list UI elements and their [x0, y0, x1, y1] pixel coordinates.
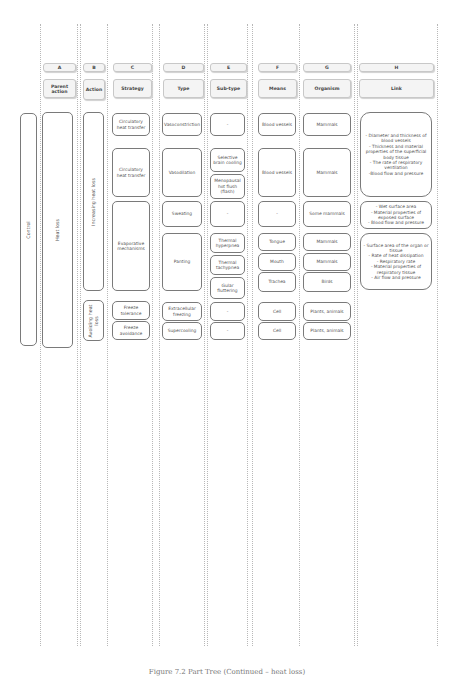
strategy-node: Freeze avoidance — [112, 321, 150, 340]
column-guide — [357, 24, 358, 646]
column-letter-c: C — [113, 63, 152, 72]
subtype-node: - — [210, 113, 245, 136]
subtype-node: Selective brain cooling — [210, 148, 245, 172]
column-guide — [437, 24, 438, 646]
organism-node: Mammals — [303, 148, 351, 197]
means-node: Cell — [258, 322, 296, 340]
link-node: - Diameter and thickness of blood vessel… — [360, 112, 432, 197]
strategy-node: Evaporative mechanisms — [112, 201, 150, 291]
type-node: Extracellular freezing — [162, 302, 202, 321]
means-node: Blood vessels — [258, 113, 296, 136]
column-title-link: Link — [359, 79, 434, 98]
parent-action-node-heat-loss: Heat loss — [42, 112, 73, 348]
organism-node: Mammals — [303, 113, 351, 136]
type-node: Vasodilation — [162, 148, 202, 197]
column-title-action: Action — [83, 79, 105, 100]
means-node: Blood vessels — [258, 148, 296, 197]
action-node-avoiding-heat-loss: Avoiding heat loss — [83, 300, 104, 341]
column-letter-g: G — [303, 63, 351, 72]
organism-node: Plants, animals — [303, 302, 351, 321]
action-label: Avoiding heat loss — [88, 302, 99, 340]
link-node: - Wet surface area - Material properties… — [360, 201, 432, 229]
column-guide — [152, 24, 153, 646]
means-node: Tongue — [258, 233, 296, 251]
column-guide — [80, 24, 81, 646]
subtype-node: Gular fluttering — [210, 277, 245, 299]
column-guide — [299, 24, 300, 646]
column-letter-d: D — [163, 63, 204, 72]
means-node: Mouth — [258, 253, 296, 271]
means-node: Trachea — [258, 272, 296, 292]
column-title-parent-action: Parent action — [43, 79, 76, 98]
link-node: - Surface area of the organ or tissue - … — [360, 233, 432, 290]
column-guide — [77, 24, 78, 646]
column-title-type: Type — [163, 79, 204, 98]
organism-node: Birds — [303, 272, 351, 292]
type-node: Sweating — [162, 201, 202, 227]
parent-action-label: Heat loss — [55, 219, 61, 241]
type-node: Panting — [162, 233, 202, 291]
organism-node: Some mammals — [303, 201, 351, 227]
strategy-node: Freeze tolerance — [112, 301, 150, 320]
action-node-increasing-heat-loss: Increasing heat loss — [83, 112, 104, 291]
type-node: Vasoconstriction — [162, 113, 202, 136]
column-letter-b: B — [83, 63, 105, 72]
column-letter-e: E — [210, 63, 247, 72]
strategy-node: Circulatory heat transfer — [112, 113, 150, 136]
column-letter-a: A — [43, 63, 76, 72]
column-guide — [107, 24, 108, 646]
column-letter-f: F — [258, 63, 297, 72]
organism-node: Mammals — [303, 253, 351, 271]
column-guide — [207, 24, 208, 646]
subtype-node: Thermal tachypnea — [210, 255, 245, 275]
type-node: Supercooling — [162, 322, 202, 340]
column-letter-h: H — [359, 63, 434, 72]
subtype-node: - — [210, 302, 245, 321]
column-guide — [252, 24, 253, 646]
organism-node: Mammals — [303, 233, 351, 251]
strategy-node: Circulatory heat transfer — [112, 148, 150, 197]
means-node: - — [258, 201, 296, 227]
organism-node: Plants, animals — [303, 322, 351, 340]
column-guide — [204, 24, 205, 646]
column-guide — [159, 24, 160, 646]
column-guide — [247, 24, 248, 646]
column-title-subtype: Sub-type — [210, 79, 247, 98]
subtype-node: - — [210, 322, 245, 340]
root-node-label: Control — [26, 221, 32, 238]
root-node-control: Control — [20, 113, 37, 346]
column-guide — [354, 24, 355, 646]
column-title-organism: Organism — [303, 79, 351, 98]
action-label: Increasing heat loss — [91, 178, 97, 226]
subtype-node: Menopausal hot flush (flash) — [210, 174, 245, 199]
subtype-node: - — [210, 201, 245, 227]
subtype-node: Thermal hyperpnea — [210, 233, 245, 253]
column-title-means: Means — [258, 79, 297, 98]
figure-caption: Figure 7.2 Part Tree (Continued – heat l… — [0, 668, 454, 676]
column-guide — [40, 24, 41, 646]
column-title-strategy: Strategy — [113, 79, 152, 98]
means-node: Cell — [258, 302, 296, 321]
